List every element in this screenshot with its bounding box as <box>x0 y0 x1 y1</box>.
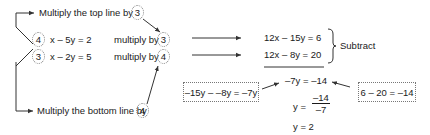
y-working-note: –15y – –8y = –7y <box>183 82 259 102</box>
step-2-lhs: y = <box>293 101 306 113</box>
bottom-instruction-label: Multiply the bottom line by <box>37 105 147 117</box>
fraction-denominator: –7 <box>312 104 330 115</box>
step-2-fraction: –14 –7 <box>312 92 330 115</box>
eq1-cross-factor: 4 <box>32 32 45 47</box>
eq2-multiply-label: multiply by <box>114 51 159 63</box>
operation-label: Subtract <box>340 40 375 52</box>
const-working-note: 6 – 20 = –14 <box>358 82 416 102</box>
fraction-numerator: –14 <box>312 92 330 104</box>
eq1-multiply-label: multiply by <box>114 34 159 46</box>
eq2-result: 12x – 8y = 20 <box>264 49 321 61</box>
top-factor-circle: 3 <box>131 5 144 20</box>
eq1-text: x – 5y = 2 <box>50 34 91 46</box>
top-instruction-label: Multiply the top line by <box>39 7 133 19</box>
step-3: y = 2 <box>293 121 314 133</box>
eq1-result: 12x – 15y = 6 <box>264 32 321 44</box>
eq1-multiplier-circle: 3 <box>157 32 170 47</box>
eq2-cross-factor: 3 <box>32 49 45 64</box>
eq2-text: x – 2y = 5 <box>50 51 91 63</box>
step-1: –7y = –14 <box>285 75 327 87</box>
bottom-factor-circle: 4 <box>136 103 149 118</box>
eq2-multiplier-circle: 4 <box>157 49 170 64</box>
